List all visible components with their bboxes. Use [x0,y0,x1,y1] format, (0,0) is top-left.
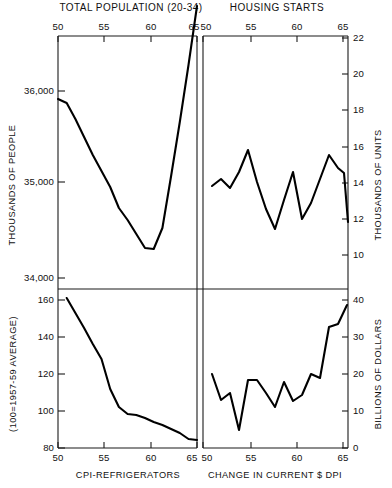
xtick-label-bl-0: 50 [53,452,64,463]
xtick-label-br-3: 65 [338,452,349,463]
ytick-label-tl-34000: 34,000 [24,272,54,283]
panel-bottom-right: 40 30 20 10 0 50 55 60 65 BILLIONS OF DO… [202,289,383,480]
ytick-label-tl-35000: 35,000 [24,176,54,187]
ytick-label-bl-160: 160 [38,294,54,305]
ytick-label-br-10: 10 [353,405,364,416]
ytick-label-tr-20: 20 [353,68,364,79]
yaxis-label-thousands-of-units: THOUSANDS OF UNITS [373,129,383,240]
ytick-label-br-40: 40 [353,294,364,305]
data-line-cpi-refrigerators [67,298,197,440]
ytick-label-bl-100: 100 [38,405,54,416]
xtick-label-tr-1: 55 [246,21,257,32]
yaxis-label-thousands-of-people: THOUSANDS OF PEOPLE [7,125,17,246]
xaxis-label-cpi-refrigerators: CPI-REFRIGERATORS [76,470,180,480]
data-line-total-population [58,6,197,249]
ytick-label-tr-14: 14 [353,177,364,188]
xtick-label-tr-3: 65 [338,21,349,32]
ytick-label-tr-18: 18 [353,104,364,115]
yaxis-label-billions-of-dollars: BILLIONS OF DOLLARS [373,319,383,430]
xtick-label-bl-2: 60 [146,452,157,463]
xtick-label-tl-1: 55 [99,21,110,32]
ytick-label-br-30: 30 [353,331,364,342]
data-line-change-in-current-dollar-dpi [212,305,347,430]
ytick-label-tr-16: 16 [353,141,364,152]
xaxis-label-change-in-current-dollar-dpi: CHANGE IN CURRENT $ DPI [208,470,342,480]
ytick-label-bl-120: 120 [38,368,54,379]
xtick-label-bl-1: 55 [99,452,110,463]
xtick-label-br-0: 50 [202,452,213,463]
ytick-label-br-0: 0 [353,442,358,453]
ytick-label-br-20: 20 [353,368,364,379]
ytick-label-tr-12: 12 [353,213,364,224]
ytick-label-tr-22: 22 [353,32,364,43]
xtick-label-tr-0: 50 [201,21,212,32]
xtick-label-br-1: 55 [246,452,257,463]
four-panel-chart-figure: TOTAL POPULATION (20-34) 50 55 60 65 36,… [0,0,392,488]
xtick-label-tr-2: 60 [292,21,303,32]
panel-bottom-left: 160 140 120 100 80 50 55 60 65 (100=1957… [8,289,197,480]
chart-svg: TOTAL POPULATION (20-34) 50 55 60 65 36,… [0,0,392,488]
ytick-label-tr-10: 10 [353,249,364,260]
xtick-label-bl-3: 65 [187,452,198,463]
xtick-label-br-2: 60 [292,452,303,463]
panel-top-left: TOTAL POPULATION (20-34) 50 55 60 65 36,… [7,2,203,289]
yaxis-label-index-1957-59-average: (100=1957-59 AVERAGE) [8,316,18,432]
panel-title-total-population: TOTAL POPULATION (20-34) [59,2,202,13]
xtick-label-tl-2: 60 [146,21,157,32]
ytick-label-tl-36000: 36,000 [24,85,54,96]
data-line-housing-starts [212,150,348,229]
panel-title-housing-starts: HOUSING STARTS [230,2,324,13]
ytick-label-bl-140: 140 [38,331,54,342]
panel-top-right: HOUSING STARTS 50 55 60 65 22 20 18 16 1… [201,2,383,289]
xtick-label-tl-0: 50 [53,21,64,32]
